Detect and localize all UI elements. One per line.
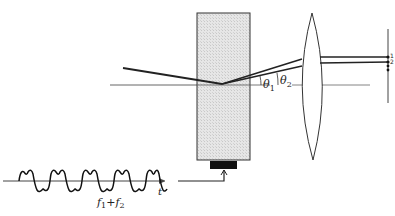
theta2-label: θ2 — [280, 74, 292, 89]
theta1-arc — [260, 76, 261, 85]
transducer — [210, 161, 237, 169]
drive-cable — [178, 170, 224, 181]
spot-3 — [387, 65, 390, 68]
signal-label: f1+f2 — [96, 196, 125, 210]
theta2-arc — [277, 73, 278, 85]
focused-beam-2 — [320, 62, 388, 63]
crystal-block — [197, 13, 250, 160]
acousto-optic-diagram: θ1 θ2 1 2 t f1+f2 — [0, 0, 395, 216]
lens — [302, 13, 322, 160]
order-label-2: 2 — [390, 58, 394, 65]
spot-4 — [387, 69, 390, 72]
theta1-label: θ1 — [263, 78, 275, 93]
